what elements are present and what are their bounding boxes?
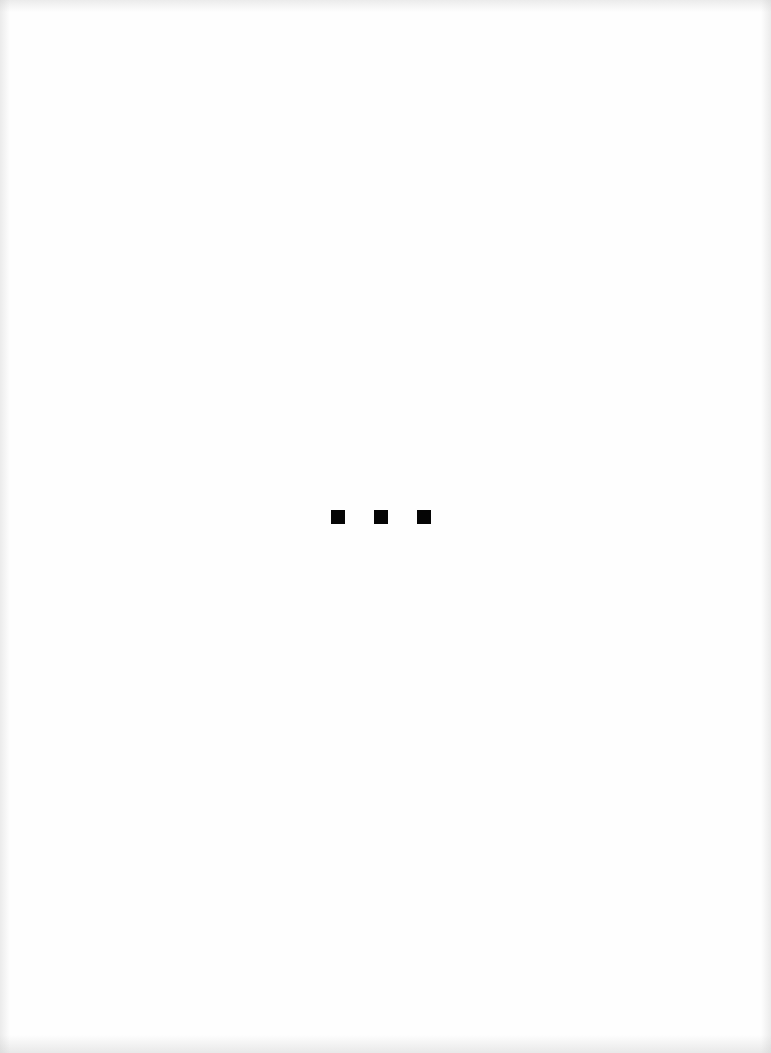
square-dot-icon — [331, 510, 345, 524]
square-dot-icon — [374, 510, 388, 524]
square-dot-icon — [417, 510, 431, 524]
ellipsis-separator — [331, 510, 431, 524]
document-page — [0, 0, 771, 1053]
